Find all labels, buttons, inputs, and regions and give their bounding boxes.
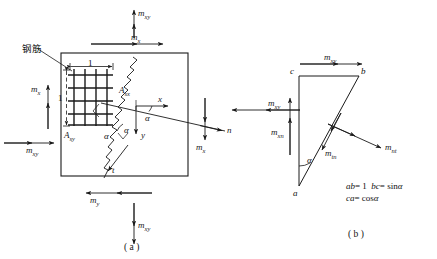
moment-label-right-vertical: mx: [196, 143, 205, 154]
angle-arc-2: [117, 124, 123, 131]
steel-area-label-asy: Asy: [64, 131, 75, 142]
moment-label-b-top: mxy: [324, 53, 336, 64]
moment-label-bottom-inner: my: [90, 196, 99, 207]
angle-label-b-alpha: α: [307, 155, 312, 165]
panel-caption-a: ( a ): [124, 242, 139, 252]
moment-label-right-horizontal: mxy: [268, 99, 280, 110]
angle-label-alpha-1: α: [145, 113, 150, 123]
axis-label-t: t: [112, 166, 115, 175]
angle-label-alpha-3: α: [104, 131, 109, 141]
formula-line-1: ab= 1 bc= sinα: [346, 181, 402, 191]
axis-label-x: x: [158, 95, 162, 104]
angle-label-alpha-2: α: [124, 125, 129, 135]
vertex-label-b: b: [361, 66, 366, 76]
figure-root: 钢筋 mxy mx mx mxy mxy mx my mxy Asx Asy 1…: [0, 0, 437, 259]
moment-b-right-arrows: [328, 124, 381, 148]
moment-label-top-inner: mx: [131, 33, 140, 44]
moment-label-left-vertical: mx: [31, 85, 40, 96]
moment-label-left-horizontal: mxy: [26, 146, 38, 157]
vertex-label-c: c: [290, 66, 294, 76]
triangle-abc: [299, 76, 359, 186]
formula-line-2: ca= cosα: [346, 193, 379, 203]
axis-label-y: y: [141, 131, 145, 140]
panel-caption-b: ( b ): [348, 229, 364, 239]
moment-label-b-middle: mtn: [325, 149, 337, 160]
moment-label-top-outer: mxy: [138, 9, 150, 20]
moment-label-b-right: mnt: [385, 143, 397, 154]
rebar-leader-line: [38, 49, 72, 71]
dimension-label-vertical: 1: [58, 93, 63, 103]
vertex-label-a: a: [293, 188, 298, 198]
n-axis-arrow: [200, 126, 222, 131]
steel-area-label-asx: Asx: [119, 86, 130, 97]
rebar-annotation-label: 钢筋: [22, 41, 42, 55]
dimension-label-horizontal: 1: [88, 58, 93, 68]
moment-label-b-left: mxn: [271, 128, 284, 139]
moment-label-bottom-outer: mxy: [138, 221, 150, 232]
rebar-grid: [68, 69, 113, 126]
dimension-vertical: [63, 70, 70, 126]
moment-b-middle-arrows: [322, 113, 341, 150]
angle-arc-1: [149, 106, 152, 112]
axis-label-n: n: [227, 126, 232, 135]
